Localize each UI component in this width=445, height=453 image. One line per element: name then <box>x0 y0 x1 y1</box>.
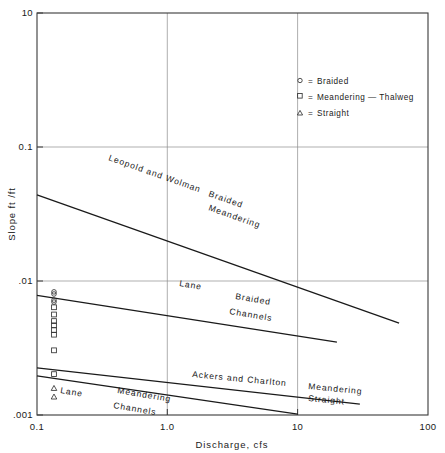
legend-equals-1: = <box>308 93 313 102</box>
log-log-plot: 10 0.1 .01 .001 0.1 1.0 10 100 Discharge… <box>0 0 445 453</box>
legend-label-braided: Braided <box>317 77 349 86</box>
legend-label-meandering-thalweg: Meandering — Thalweg <box>317 93 414 102</box>
x-tick-label-0.1: 0.1 <box>30 421 44 432</box>
chart-figure: 10 0.1 .01 .001 0.1 1.0 10 100 Discharge… <box>0 0 445 453</box>
x-tick-label-100: 100 <box>419 421 436 432</box>
legend-equals-2: = <box>308 109 313 118</box>
y-tick-label-10: 10 <box>22 7 33 18</box>
legend-equals-0: = <box>308 77 313 86</box>
y-tick-label-.01: .01 <box>19 275 33 286</box>
x-axis-title: Discharge, cfs <box>196 439 269 450</box>
y-tick-label-0.1: 0.1 <box>19 141 33 152</box>
y-axis-title: Slope ft /ft <box>6 187 17 241</box>
y-tick-label-.001: .001 <box>13 409 33 420</box>
x-tick-label-1.0: 1.0 <box>160 421 174 432</box>
x-tick-label-10: 10 <box>292 421 303 432</box>
legend-label-straight: Straight <box>317 109 349 118</box>
